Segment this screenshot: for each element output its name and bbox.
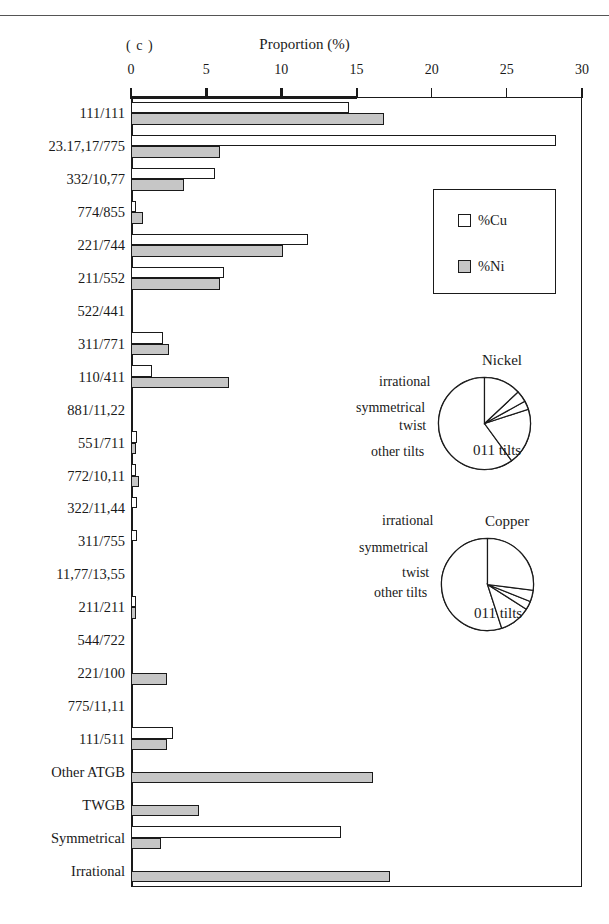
- pie-nickel-label-symmetrical: symmetrical: [356, 400, 425, 416]
- bar-row: Irrational: [0, 854, 609, 887]
- bar-ni: [131, 443, 136, 455]
- category-label: 111/111: [80, 105, 125, 122]
- legend-label-cu: %Cu: [478, 212, 507, 229]
- bar-ni: [131, 805, 199, 817]
- bar-row: 522/441: [0, 295, 609, 328]
- bar-cu: [131, 234, 308, 246]
- category-label: 111/511: [79, 730, 125, 747]
- legend-box: %Cu %Ni: [433, 189, 556, 294]
- category-label: 311/755: [78, 533, 125, 550]
- bar-ni: [131, 673, 167, 685]
- bar-cu: [131, 826, 341, 838]
- pie-copper-label-twist: twist: [402, 565, 429, 581]
- bar-row: 111/511: [0, 722, 609, 755]
- x-tick-label-10: 10: [274, 62, 288, 78]
- bar-cu: [131, 464, 136, 476]
- pie-slice: [488, 539, 534, 591]
- legend-item-ni: %Ni: [458, 258, 505, 275]
- bar-cu: [131, 497, 137, 509]
- bar-ni: [131, 245, 283, 257]
- x-tick-label-0: 0: [128, 62, 135, 78]
- bar-ni: [131, 212, 143, 224]
- bar-row: Symmetrical: [0, 821, 609, 854]
- category-label: Other ATGB: [51, 763, 125, 780]
- pie-copper-label-symmetrical: symmetrical: [359, 540, 428, 556]
- bar-ni: [131, 344, 169, 356]
- pie-nickel-label-irrational: irrational: [379, 374, 430, 390]
- x-tick-label-25: 25: [500, 62, 514, 78]
- bar-ni: [131, 278, 220, 290]
- bar-row: 23.17,17/775: [0, 130, 609, 163]
- category-label: 211/211: [79, 599, 125, 616]
- pie-copper-label-011-tilts: 011 tilts: [474, 605, 522, 622]
- category-label: 311/771: [78, 335, 125, 352]
- bar-cu: [131, 530, 137, 542]
- x-tick-label-5: 5: [203, 62, 210, 78]
- figure-panel-c: ( c ) Proportion (%) 051015202530 111/11…: [0, 0, 609, 924]
- x-axis-emphasis-segment: [131, 96, 357, 99]
- bar-cu: [131, 135, 556, 147]
- bar-ni: [131, 146, 220, 158]
- pie-nickel-label-twist: twist: [399, 418, 426, 434]
- category-label: 544/722: [77, 632, 125, 649]
- bar-cu: [131, 727, 173, 739]
- category-label: 772/10,11: [67, 467, 125, 484]
- category-label: 774/855: [77, 204, 125, 221]
- bar-ni: [131, 377, 229, 389]
- category-label: 11,77/13,55: [56, 566, 125, 583]
- bar-ni: [131, 476, 139, 488]
- bar-ni: [131, 607, 136, 619]
- pie-title-nickel: Nickel: [482, 352, 522, 369]
- legend-item-cu: %Cu: [458, 212, 507, 229]
- x-tick-label-30: 30: [575, 62, 589, 78]
- category-label: 221/100: [77, 665, 125, 682]
- bar-ni: [131, 113, 384, 125]
- bar-cu: [131, 168, 215, 180]
- legend-swatch-ni-icon: [458, 260, 471, 273]
- bar-ni: [131, 838, 161, 850]
- bar-row: Other ATGB: [0, 755, 609, 788]
- category-label: 322/11,44: [67, 500, 125, 517]
- category-label: 211/552: [78, 270, 125, 287]
- category-label: Irrational: [71, 862, 125, 879]
- legend-swatch-cu-icon: [458, 214, 471, 227]
- bar-ni: [131, 179, 184, 191]
- bar-row: 775/11,11: [0, 690, 609, 723]
- pie-title-copper: Copper: [485, 513, 529, 530]
- bar-cu: [131, 332, 163, 344]
- category-label: TWGB: [82, 796, 125, 813]
- bar-cu: [131, 102, 349, 114]
- pie-nickel-label-011-tilts: 011 tilts: [473, 442, 521, 459]
- bar-ni: [131, 772, 373, 784]
- bar-row: 111/111: [0, 97, 609, 130]
- category-label: 881/11,22: [67, 401, 125, 418]
- bar-row: TWGB: [0, 788, 609, 821]
- pie-copper-label-irrational: irrational: [382, 513, 433, 529]
- category-label: 110/411: [79, 368, 125, 385]
- category-label: 332/10,77: [67, 171, 125, 188]
- category-label: 23.17,17/775: [48, 138, 125, 155]
- pie-nickel-label-other-tilts: other tilts: [371, 444, 424, 460]
- pie-copper-label-other-tilts: other tilts: [374, 585, 427, 601]
- x-axis-title: Proportion (%): [0, 36, 609, 53]
- top-divider-rule: [0, 15, 609, 16]
- bar-row: 221/100: [0, 657, 609, 690]
- category-label: 221/744: [77, 237, 125, 254]
- legend-label-ni: %Ni: [478, 258, 505, 275]
- x-tick-label-20: 20: [425, 62, 439, 78]
- bar-cu: [131, 267, 224, 279]
- bar-cu: [131, 201, 136, 213]
- bar-ni: [131, 739, 167, 751]
- category-label: 522/441: [77, 302, 125, 319]
- category-label: 775/11,11: [68, 697, 125, 714]
- category-label: Symmetrical: [51, 829, 125, 846]
- bar-ni: [131, 871, 390, 883]
- bar-cu: [131, 365, 152, 377]
- category-label: 551/711: [78, 434, 125, 451]
- x-tick-label-15: 15: [350, 62, 364, 78]
- bar-cu: [131, 431, 137, 443]
- bar-cu: [131, 596, 136, 608]
